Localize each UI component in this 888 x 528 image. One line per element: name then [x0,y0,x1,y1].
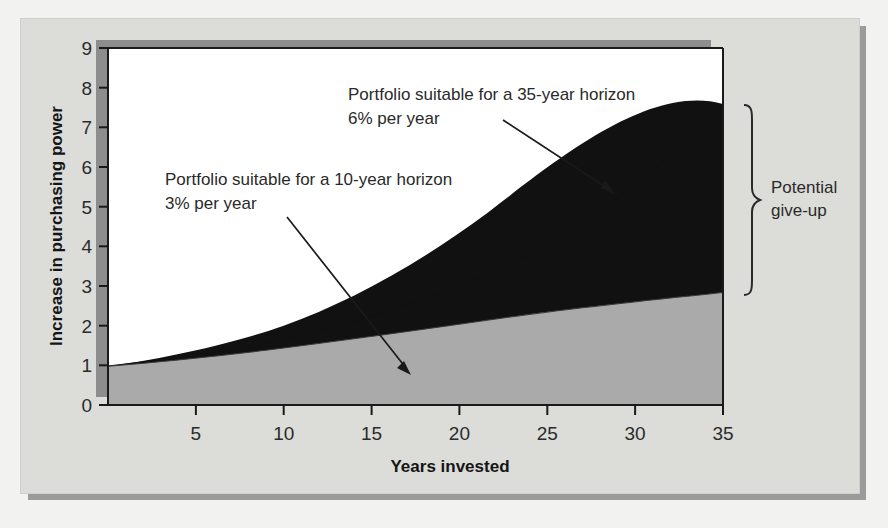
annotation-10-year-line2: 3% per year [165,194,257,213]
x-tick-label-20: 20 [449,423,470,444]
brace-label-line1: Potential [771,178,837,197]
brace-label-line2: give-up [771,201,827,220]
potential-give-up-brace [744,105,760,295]
y-tick-label-7: 7 [81,117,92,138]
y-axis-title: Increase in purchasing power [47,106,66,346]
x-tick-label-15: 15 [361,423,382,444]
annotation-35-year-line1: Portfolio suitable for a 35-year horizon [348,85,635,104]
y-tick-label-1: 1 [81,355,92,376]
annotation-35-year-line2: 6% per year [348,109,440,128]
y-tick-label-4: 4 [81,236,92,257]
area-chart: 9 8 7 6 5 4 3 2 1 0 5 10 15 20 25 30 35 … [0,0,888,528]
y-tick-label-0: 0 [81,395,92,416]
x-tick-label-30: 30 [625,423,646,444]
annotation-10-year-line1: Portfolio suitable for a 10-year horizon [165,170,452,189]
figure-root: 9 8 7 6 5 4 3 2 1 0 5 10 15 20 25 30 35 … [0,0,888,528]
x-axis-title: Years invested [390,457,509,476]
x-tick-label-10: 10 [273,423,294,444]
y-tick-label-6: 6 [81,157,92,178]
x-tick-label-25: 25 [537,423,558,444]
y-tick-label-9: 9 [81,38,92,59]
y-tick-label-5: 5 [81,197,92,218]
y-tick-label-2: 2 [81,316,92,337]
y-axis-ticks [99,48,108,405]
x-tick-label-35: 35 [712,423,733,444]
x-tick-label-5: 5 [191,423,202,444]
y-tick-label-3: 3 [81,276,92,297]
y-tick-label-8: 8 [81,78,92,99]
x-axis-ticks [196,405,723,415]
